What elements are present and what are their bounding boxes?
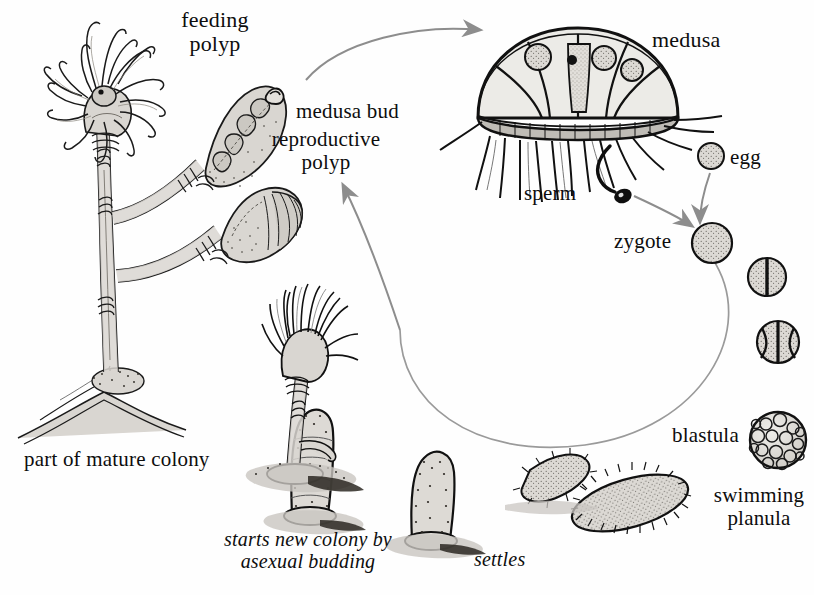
arrow-cycle-loop <box>400 258 729 447</box>
label-swimming-planula: swimming planula <box>704 484 814 530</box>
zygote <box>692 223 732 263</box>
reproductive-polyp-secondary <box>210 188 302 264</box>
life-cycle-diagram: feeding polyp medusa bud reproductive po… <box>0 0 814 595</box>
label-reproductive-polyp: reproductive polyp <box>246 128 406 174</box>
label-blastula: blastula <box>672 424 739 447</box>
four-cell-stage <box>757 321 799 363</box>
label-part-of-mature-colony: part of mature colony <box>24 448 210 471</box>
label-zygote: zygote <box>614 230 671 253</box>
settling-planula <box>505 448 600 514</box>
label-starts-new-colony: starts new colony by asexual budding <box>178 528 438 572</box>
label-settles: settles <box>474 548 525 570</box>
sperm <box>598 146 634 206</box>
arrow-polyp-to-medusa <box>306 29 480 80</box>
label-feeding-polyp: feeding polyp <box>140 8 290 56</box>
egg <box>698 143 724 169</box>
mature-colony <box>18 22 302 444</box>
two-cell-stage <box>748 258 786 296</box>
colony-branch-lower <box>116 226 222 282</box>
blastula <box>750 412 807 470</box>
arrow-egg-to-zygote <box>700 173 710 222</box>
arrow-sperm-to-zygote <box>634 196 692 226</box>
medusa <box>440 28 722 202</box>
stolon-base <box>18 366 186 444</box>
colony-branch-upper <box>112 160 204 224</box>
arrow-newcolony-to-reproductive-polyp <box>343 185 400 330</box>
label-medusa-bud: medusa bud <box>296 100 399 123</box>
label-sperm: sperm <box>524 182 576 205</box>
diagram-artwork <box>0 0 814 595</box>
colony-main-stalk <box>97 132 118 372</box>
label-egg: egg <box>730 146 761 169</box>
label-medusa: medusa <box>652 28 720 52</box>
